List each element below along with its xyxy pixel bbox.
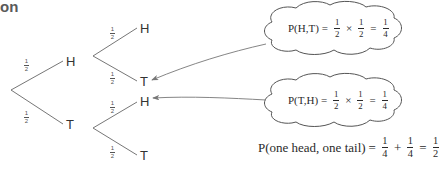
prob-den: 2 (111, 34, 114, 40)
branch-h-h (93, 28, 137, 56)
prob-num: 1 (111, 100, 114, 106)
prob-den: 2 (111, 79, 114, 85)
prob-num: 1 (111, 145, 114, 151)
node-th: H (140, 95, 149, 108)
prob-den: 2 (111, 108, 114, 114)
equals-sign: = (369, 94, 375, 106)
prob-root-t: 12 (24, 110, 29, 124)
prob-den: 2 (111, 153, 114, 159)
prob-root-h: 12 (24, 58, 29, 72)
node-tt: T (140, 149, 148, 162)
prob-num: 1 (111, 71, 114, 77)
equals-sign: = (321, 94, 327, 106)
prob-den: 2 (25, 66, 28, 72)
prob-t-h: 12 (110, 100, 115, 114)
prob-den: 2 (25, 118, 28, 124)
formula-p-ht: P(H,T) = 12 × 12 = 14 (288, 18, 392, 39)
branch-t-t (93, 128, 137, 155)
fraction: 12 (358, 18, 364, 39)
equals-sign: = (369, 140, 376, 156)
node-t-level1: T (66, 118, 74, 131)
prob-num: 1 (25, 110, 28, 116)
fraction: 12 (334, 18, 340, 39)
formula-p-th: P(T,H) = 12 × 12 = 14 (288, 90, 391, 111)
branch-h-t (93, 56, 137, 81)
formula-one-head-one-tail: P(one head, one tail) = 14 + 14 = 12 (258, 136, 442, 160)
branch-t-h (93, 102, 137, 128)
plus-sign: + (394, 140, 401, 156)
equals-sign: = (370, 22, 376, 34)
fraction: 12 (333, 90, 339, 111)
equals-sign: = (322, 22, 328, 34)
fraction: 12 (433, 136, 439, 160)
fraction: 14 (382, 90, 388, 111)
fraction: 14 (407, 136, 413, 160)
fraction: 14 (383, 18, 389, 39)
arrow-to-ht (152, 44, 266, 80)
prob-num: 1 (25, 58, 28, 64)
prob-h-t: 12 (110, 71, 115, 85)
formula-lhs: P(T,H) (288, 94, 318, 106)
fraction: 14 (382, 136, 388, 160)
times-sign: × (346, 22, 352, 34)
branch-root-t (11, 90, 63, 124)
prob-num: 1 (111, 26, 114, 32)
node-h-level1: H (66, 55, 75, 68)
equals-sign: = (419, 140, 426, 156)
branch-root-h (11, 61, 63, 90)
times-sign: × (345, 94, 351, 106)
node-hh: H (140, 22, 149, 35)
node-ht: T (140, 75, 148, 88)
formula-lhs: P(H,T) (288, 22, 319, 34)
formula-lhs: P(one head, one tail) (258, 140, 366, 156)
arrow-to-th (153, 97, 266, 100)
fraction: 12 (357, 90, 363, 111)
prob-t-t: 12 (110, 145, 115, 159)
prob-h-h: 12 (110, 26, 115, 40)
